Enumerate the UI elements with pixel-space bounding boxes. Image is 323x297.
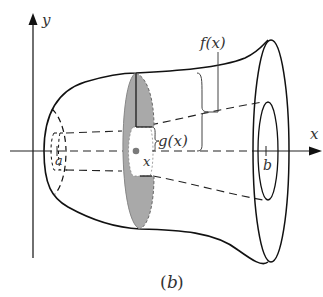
b-label: b <box>263 157 272 173</box>
inner-surface-bottom <box>153 176 263 200</box>
slice-center-dot <box>133 148 140 155</box>
outer-surface-top <box>44 40 268 151</box>
y-axis-label: y <box>41 11 51 29</box>
a-label: a <box>55 153 63 168</box>
outer-surface-bottom <box>44 151 268 264</box>
slice-x-label: x <box>143 154 151 169</box>
washer-slice <box>123 73 154 229</box>
washer-method-diagram: y x <box>0 0 323 297</box>
figure-caption: ( b ) <box>160 272 184 292</box>
y-axis-arrow-icon <box>29 13 38 25</box>
svg-text:(: ( <box>160 272 167 292</box>
f-brace <box>197 73 208 151</box>
x-axis-label: x <box>310 125 319 143</box>
f-of-x-label: f(x) <box>199 34 226 52</box>
x-axis-arrow-icon <box>309 147 322 156</box>
y-axis: y <box>29 11 52 258</box>
inner-surface-top <box>150 102 263 125</box>
svg-text:): ) <box>177 272 184 292</box>
g-of-x-label: g(x) <box>158 132 188 150</box>
